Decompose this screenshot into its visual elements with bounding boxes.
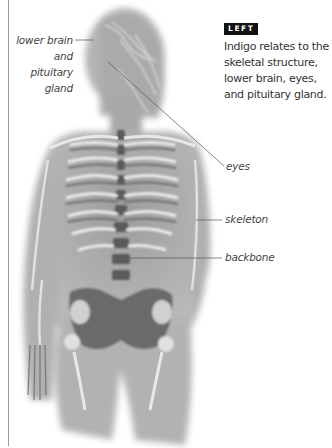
label-eyes: eyes xyxy=(226,158,250,174)
label-backbone: backbone xyxy=(225,249,275,265)
label-lower-brain: lower brain and pituitary gland xyxy=(16,32,73,96)
label-line: gland xyxy=(16,80,73,96)
book-page: lower brain and pituitary gland eyes ske… xyxy=(0,0,332,448)
label-skeleton: skeleton xyxy=(225,211,268,227)
label-line: lower brain xyxy=(16,32,73,48)
label-line: and xyxy=(16,48,73,64)
figure-caption: Indigo relates to the skeletal structure… xyxy=(224,39,332,103)
direction-badge: LEFT xyxy=(224,23,258,35)
label-line: pituitary xyxy=(16,64,73,80)
